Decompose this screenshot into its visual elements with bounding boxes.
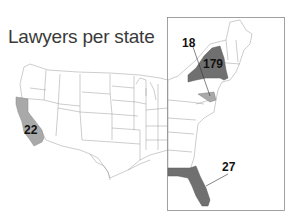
label-florida: 27 — [222, 160, 235, 174]
label-maryland: 18 — [182, 36, 195, 50]
state-borders — [20, 64, 168, 180]
leader-line-fl — [206, 174, 228, 186]
label-california: 22 — [24, 123, 37, 137]
state-florida — [168, 166, 210, 206]
label-new-york: 179 — [203, 57, 223, 71]
us-map — [0, 0, 292, 220]
